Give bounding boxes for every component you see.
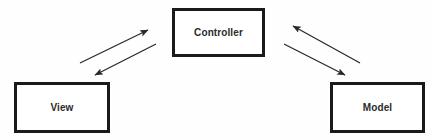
edge-controller-to-model [284, 44, 345, 75]
edge-model-to-controller [293, 26, 360, 63]
node-model-label: Model [363, 103, 392, 113]
node-controller-label: Controller [194, 28, 243, 38]
node-controller[interactable]: Controller [172, 8, 265, 57]
edge-controller-to-view [95, 44, 156, 75]
edge-view-to-controller [80, 30, 148, 63]
mvc-diagram: Controller View Model [0, 0, 432, 140]
node-model[interactable]: Model [330, 82, 425, 133]
node-view[interactable]: View [14, 82, 110, 133]
node-view-label: View [50, 103, 73, 113]
